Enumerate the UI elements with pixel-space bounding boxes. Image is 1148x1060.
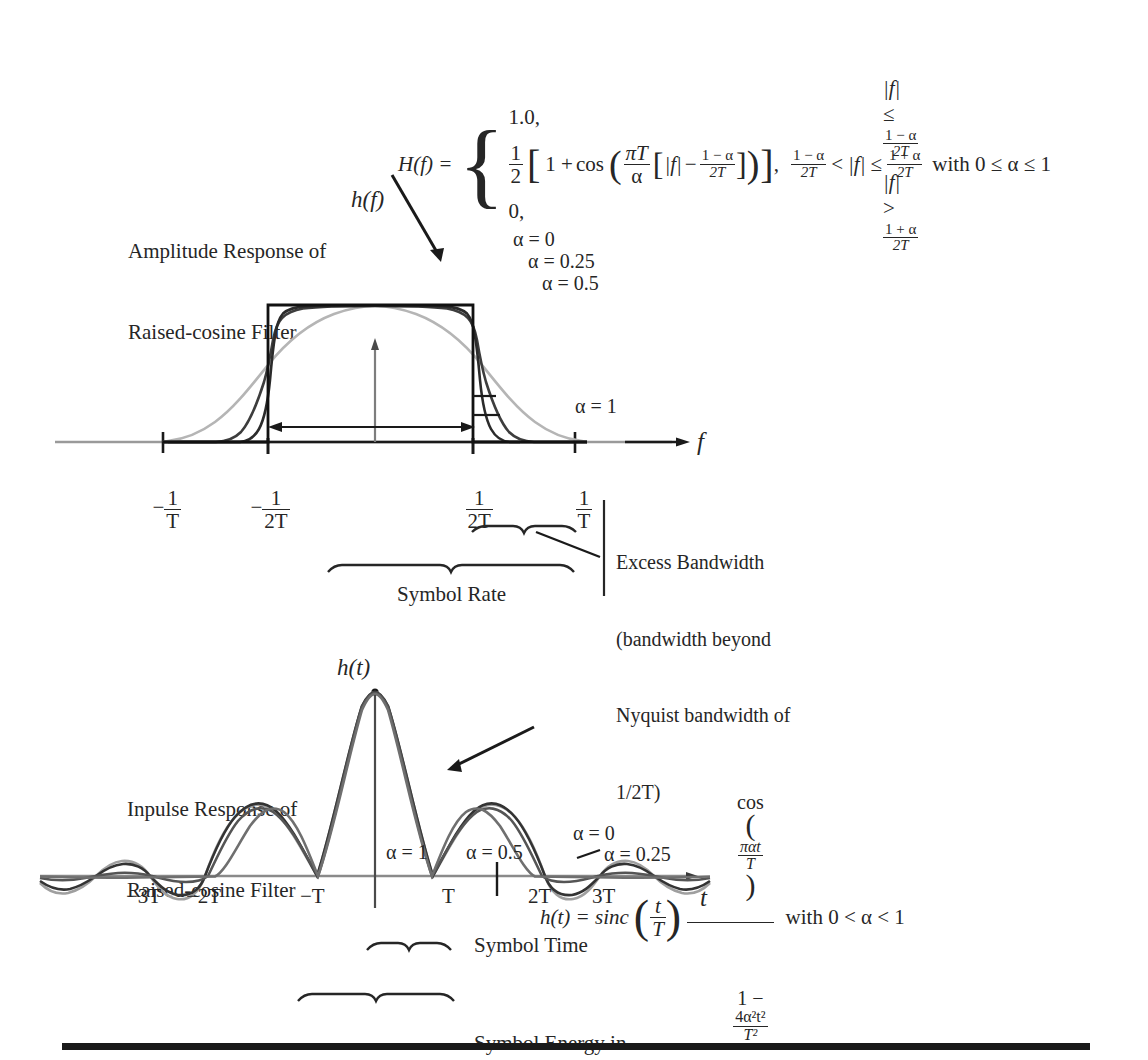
- impulse-legend-alpha-1: α = 1: [386, 841, 428, 864]
- ttick-label-3T: 3T: [592, 884, 615, 909]
- t-axis-label: t: [700, 884, 707, 912]
- bottom-chart-brackets: [0, 930, 760, 1040]
- top-formula-tail: with 0 ≤ α ≤ 1: [932, 151, 1051, 177]
- ttick-label-neg-3T: −3T: [126, 884, 161, 909]
- ttick-label-neg-2T: −2T: [186, 884, 221, 909]
- case3-condition: |f| > 1 + α2T: [831, 143, 919, 281]
- formula-pointer-arrow-line: [392, 175, 438, 254]
- legend-alpha-025: α = 0.25: [528, 250, 595, 273]
- bottom-formula-pointer-line: [455, 727, 534, 766]
- excess-bandwidth-leader: [536, 532, 600, 557]
- impulse-response-chart: [0, 650, 760, 940]
- legend-alpha-1: α = 1: [575, 395, 617, 418]
- symbol-time-brace: [367, 943, 451, 950]
- bottom-divider-rule: [62, 1043, 1090, 1050]
- bottom-formula-pointer-arrowhead: [447, 759, 462, 772]
- ttick-label-2T: 2T: [528, 884, 551, 909]
- symbol-rate-arrow-left: [268, 422, 282, 432]
- impulse-legend-alpha-025: α = 0.25: [604, 843, 671, 866]
- ht-axis-label: h(t): [337, 655, 370, 681]
- ttick-label-T: T: [442, 884, 455, 909]
- impulse-legend-leader-alpha-025: [577, 850, 600, 858]
- hf-axis-arrowhead: [371, 338, 379, 350]
- f-axis-arrowhead: [676, 438, 690, 447]
- impulse-legend-alpha-0: α = 0: [573, 822, 615, 845]
- excess-note-line2: (bandwidth beyond: [616, 627, 790, 653]
- legend-alpha-05: α = 0.5: [542, 272, 599, 295]
- symbol-rate-brace: [328, 565, 574, 572]
- formula-pointer-arrowhead: [430, 248, 444, 262]
- hf-axis-label: h(f): [351, 187, 384, 213]
- symbol-energy-brace: [298, 994, 454, 1001]
- symbol-rate-label: Symbol Rate: [397, 582, 506, 607]
- impulse-legend-alpha-05: α = 0.5: [466, 841, 523, 864]
- symbol-time-label: Symbol Time: [474, 933, 588, 958]
- case1-expression: 1.0,: [509, 104, 759, 130]
- excess-bandwidth-brace: [472, 526, 576, 533]
- bottom-formula-tail: with 0 < α < 1: [786, 904, 905, 930]
- legend-alpha-0: α = 0: [513, 228, 555, 251]
- ttick-label-neg-T: −T: [300, 884, 325, 909]
- f-axis-label: f: [697, 428, 704, 456]
- excess-note-line1: Excess Bandwidth: [616, 550, 790, 576]
